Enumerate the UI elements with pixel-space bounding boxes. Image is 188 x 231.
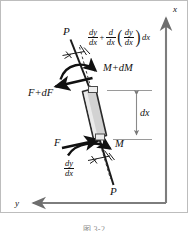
frac-dy-dx-term3: dy dx	[124, 28, 134, 46]
beam-differential-element	[83, 88, 107, 139]
label-M-bottom: M	[115, 139, 124, 150]
expression-slope-top: dy dx + d dx ( dy dx ) dx	[88, 28, 150, 46]
label-F-plus-dF: F+dF	[28, 88, 53, 99]
open-paren: (	[117, 30, 123, 44]
frac-dy-dx-bottom: dy dx	[64, 159, 74, 177]
axis-label-y: y	[15, 199, 19, 208]
frac-d-dx-term2: d dx	[106, 28, 116, 46]
expression-slope-bottom: dy dx	[64, 159, 74, 177]
label-P-bottom: P	[110, 186, 117, 197]
operator-plus: +	[99, 32, 105, 42]
label-M-plus-dM: M+dM	[103, 63, 133, 74]
figure-caption: 图 3-2	[0, 223, 188, 231]
free-body-diagram-figure: P P F+dF F M+dM M dx x y dy dx + d dx ( …	[0, 0, 188, 231]
label-dx: dx	[140, 108, 149, 118]
label-P-top: P	[63, 26, 70, 37]
label-F-bottom: F	[54, 138, 60, 149]
expression-tail-dx: dx	[142, 32, 150, 42]
axis-label-x: x	[173, 5, 177, 14]
close-paren: )	[135, 30, 141, 44]
frac-dy-dx-term1: dy dx	[88, 28, 98, 46]
slope-tick-marks-bottom	[88, 151, 115, 164]
